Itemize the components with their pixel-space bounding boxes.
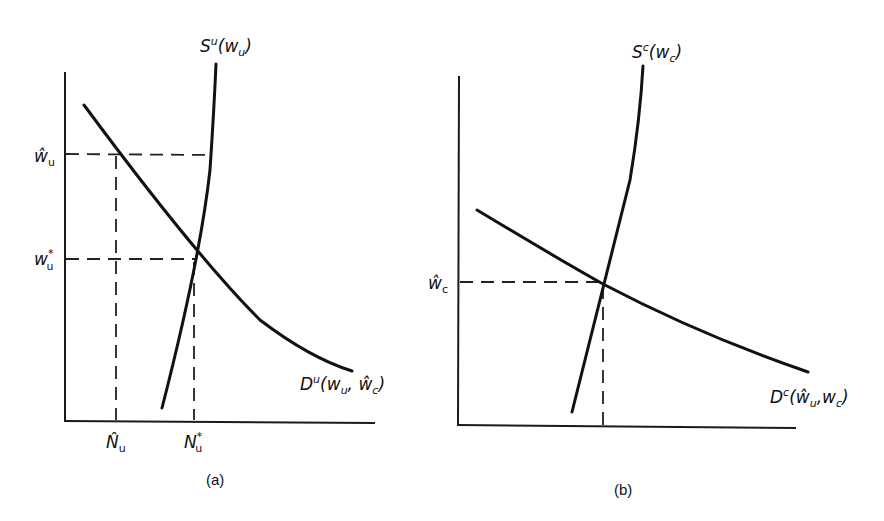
panel-a-tick-wstar-u: w*u [34,247,54,273]
panel-b-x-axis [457,425,796,428]
panel-b-supply-label: Sc(wc) [632,41,682,65]
panel-a: Su(wu) Du(wu, ŵc) ŵu w*u N̂u N*u (a) [34,35,385,488]
panel-b-y-axis [458,76,459,425]
panel-a-tick-nstar-u: N*u [184,430,203,455]
panel-a-demand-label: Du(wu, ŵc) [300,373,385,397]
panel-b-caption: (b) [614,481,632,498]
panel-a-tick-nhat-u: N̂u [106,432,126,455]
panel-a-demand-curve [84,105,352,371]
panel-a-supply-curve [162,64,216,408]
panel-a-what-u-guide [66,154,212,155]
labor-market-diagram: Su(wu) Du(wu, ŵc) ŵu w*u N̂u N*u (a) [0,0,884,521]
panel-a-caption: (a) [206,471,224,488]
panel-b-tick-what-c: ŵc [428,273,448,296]
panel-a-supply-label: Su(wu) [200,35,252,59]
panel-a-x-axis [64,421,375,423]
panel-b: Sc(wc) Dc(ŵu,wc) ŵc (b) [428,41,849,498]
panel-b-demand-curve [477,210,808,372]
panel-b-demand-label: Dc(ŵu,wc) [770,386,849,410]
panel-a-tick-what-u: ŵu [34,146,55,169]
panel-b-supply-curve [572,66,643,412]
